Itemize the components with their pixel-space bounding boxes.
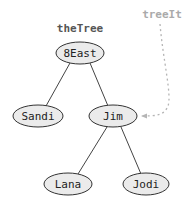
tree-node-8east: 8East bbox=[56, 42, 104, 64]
node-label: Jim bbox=[103, 110, 123, 123]
node-label: Lana bbox=[55, 178, 82, 191]
tree-variable-label: theTree bbox=[57, 22, 104, 35]
node-label: 8East bbox=[63, 47, 96, 60]
tree-node-lana: Lana bbox=[44, 173, 92, 195]
edge-8east-sandi bbox=[46, 63, 70, 106]
edge-8east-jim bbox=[90, 63, 108, 106]
iterator-pointer-arrow bbox=[142, 24, 169, 116]
tree-node-jim: Jim bbox=[89, 105, 137, 127]
node-label: Sandi bbox=[21, 110, 54, 123]
node-label: Jodi bbox=[133, 178, 160, 191]
tree-node-sandi: Sandi bbox=[13, 105, 63, 127]
tree-node-jodi: Jodi bbox=[123, 173, 169, 195]
edge-jim-jodi bbox=[121, 127, 141, 174]
binary-tree-diagram: theTree treeIt 8East Sandi Jim Lana Jodi bbox=[0, 0, 190, 204]
iterator-variable-label: treeIt bbox=[142, 8, 182, 21]
edge-jim-lana bbox=[78, 127, 107, 174]
